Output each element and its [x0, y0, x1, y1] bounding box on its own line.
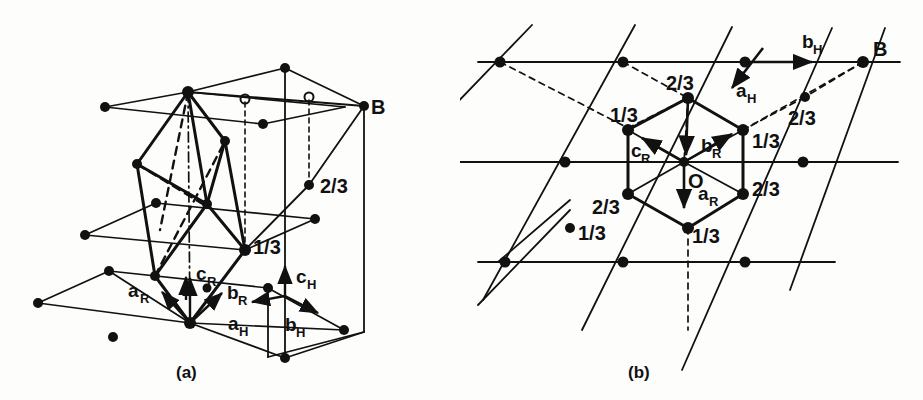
svg-text:b: b [227, 282, 239, 303]
panel-b-label-bR: b R [701, 135, 722, 161]
svg-text:a: a [698, 183, 709, 204]
svg-text:a: a [736, 80, 747, 101]
panel-a-svg: B 2/3 1/3 a R c R b R a H [0, 0, 460, 400]
panel-b-height-upper-left: 1/3 [610, 104, 638, 126]
panel-b-height-outside-node: 2/3 [788, 107, 816, 129]
svg-text:b: b [285, 314, 297, 335]
svg-text:R: R [238, 293, 248, 308]
panel-b-label-bH: b H [802, 31, 822, 57]
panel-b-height-lower-left: 2/3 [592, 196, 620, 218]
svg-text:a: a [228, 313, 239, 334]
hexagon-vertical-spoke [686, 98, 688, 155]
svg-text:R: R [140, 291, 150, 306]
panel-b-label-aH: a H [736, 80, 756, 106]
panel-a-label-aH: a H [228, 313, 248, 339]
panel-b-height-lower-right: 2/3 [752, 178, 780, 200]
svg-text:R: R [712, 146, 722, 161]
svg-text:R: R [709, 194, 719, 209]
panel-b-caption: (b) [628, 363, 650, 382]
panel-b-point-B-label: B [873, 38, 887, 60]
panel-a-label-cR: c R [196, 263, 217, 289]
panel-a-point-B-label: B [371, 96, 385, 118]
panel-b-svg: B O 2/3 1/3 1/3 2/3 2/3 1/3 2/3 1/3 b H … [460, 0, 923, 400]
panel-b-height-bottom: 1/3 [692, 225, 720, 247]
svg-text:R: R [207, 274, 217, 289]
svg-text:c: c [196, 263, 207, 284]
svg-text:c: c [296, 266, 307, 287]
panel-b-label-aR: a R [698, 183, 719, 209]
svg-text:b: b [701, 135, 713, 156]
panel-b-height-top: 2/3 [666, 72, 694, 94]
svg-text:a: a [128, 280, 139, 301]
panel-b-height-upper-right: 1/3 [752, 130, 780, 152]
panel-a-perspective-view: B 2/3 1/3 a R c R b R a H [0, 0, 460, 400]
panel-a-label-aR: a R [128, 280, 150, 306]
figure-root: B 2/3 1/3 a R c R b R a H [0, 0, 923, 400]
panel-b-height-isolated-node: 1/3 [578, 222, 606, 244]
panel-a-height-1-3: 1/3 [253, 236, 281, 258]
panel-b-plan-view: B O 2/3 1/3 1/3 2/3 2/3 1/3 2/3 1/3 b H … [460, 0, 923, 400]
svg-text:R: R [641, 151, 651, 166]
svg-text:b: b [802, 31, 814, 52]
svg-text:H: H [747, 91, 756, 106]
panel-a-label-bH: b H [285, 314, 305, 340]
panel-a-caption: (a) [176, 363, 197, 382]
svg-text:H: H [239, 324, 248, 339]
svg-text:H: H [813, 42, 822, 57]
panel-a-label-cH: c H [296, 266, 316, 292]
vector-bH-arrow [285, 296, 318, 313]
svg-text:H: H [296, 325, 305, 340]
panel-a-height-2-3: 2/3 [320, 175, 348, 197]
svg-text:H: H [307, 277, 316, 292]
